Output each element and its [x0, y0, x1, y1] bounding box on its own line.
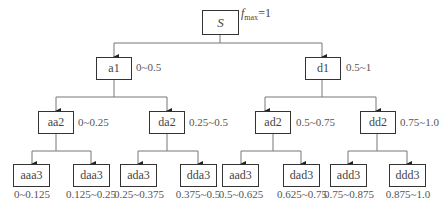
tree-node-aa2: aa2	[38, 111, 74, 134]
tree-node-ad2: ad2	[255, 111, 291, 134]
range-label: 0.5~0.625	[206, 188, 276, 200]
root-node-label: S	[217, 15, 224, 31]
range-label: 0.5~0.75	[296, 116, 335, 128]
range-label: 0.5~1	[346, 61, 371, 73]
tree-node-aad3: aad3	[222, 164, 259, 187]
tree-node-dad3: dad3	[283, 164, 320, 187]
tree-node-aaa3: aaa3	[13, 164, 50, 187]
root-node: S	[202, 10, 239, 35]
range-label: 0.25~0.5	[189, 116, 228, 128]
fmax-annotation: fmax=1	[241, 6, 271, 22]
tree-node-ada3: ada3	[120, 164, 157, 187]
tree-node-dd2: dd2	[360, 111, 396, 134]
range-label: 0~0.25	[78, 116, 109, 128]
tree-node-da2: da2	[149, 111, 185, 134]
tree-node-d1: d1	[305, 57, 341, 80]
tree-node-a1: a1	[96, 57, 132, 80]
tree-node-dda3: dda3	[180, 164, 217, 187]
range-label: 0.875~1.0	[373, 188, 443, 200]
range-label: 0.75~1.0	[400, 116, 439, 128]
tree-node-add3: add3	[330, 164, 367, 187]
tree-node-daa3: daa3	[73, 164, 110, 187]
tree-node-ddd3: ddd3	[389, 164, 426, 187]
range-label: 0~0.5	[136, 61, 161, 73]
